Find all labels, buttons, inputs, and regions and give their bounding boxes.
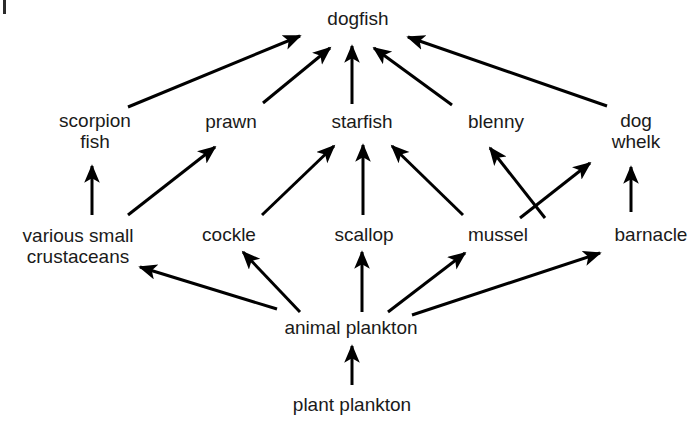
edge-animalplankton-to-cockle: [243, 252, 300, 312]
node-cockle: cockle: [202, 224, 256, 245]
node-label-line: mussel: [468, 224, 528, 245]
node-label-line: plant plankton: [293, 394, 411, 415]
node-crustaceans: various smallcrustaceans: [23, 225, 134, 267]
node-plantplankton: plant plankton: [293, 394, 411, 415]
edge-animalplankton-to-barnacle: [412, 253, 600, 315]
node-scorpionfish: scorpionfish: [59, 110, 131, 152]
node-blenny: blenny: [468, 111, 524, 132]
node-label-line: various small: [23, 225, 134, 246]
node-label-line: barnacle: [615, 224, 688, 245]
node-barnacle: barnacle: [615, 224, 688, 245]
edge-mussel-to-starfish: [392, 146, 463, 215]
node-label-line: dogfish: [327, 8, 388, 29]
node-label-line: prawn: [205, 111, 257, 132]
node-label-line: blenny: [468, 111, 524, 132]
food-web-diagram: dogfishscorpionfishprawnstarfishblennydo…: [0, 0, 694, 425]
node-label-line: dog: [612, 110, 661, 131]
node-mussel: mussel: [468, 224, 528, 245]
node-prawn: prawn: [205, 111, 257, 132]
node-label-line: whelk: [612, 131, 661, 152]
node-label-line: animal plankton: [284, 317, 417, 338]
node-dogfish: dogfish: [327, 8, 388, 29]
node-dogwhelk: dogwhelk: [612, 110, 661, 152]
edge-layer: [0, 0, 694, 425]
edge-barnacle-to-blenny: [490, 148, 545, 218]
node-animalplankton: animal plankton: [284, 317, 417, 338]
node-label-line: crustaceans: [23, 246, 134, 267]
node-scallop: scallop: [334, 224, 393, 245]
edge-prawn-to-dogfish: [263, 48, 330, 103]
edge-animalplankton-to-crustaceans: [140, 267, 277, 309]
node-label-line: starfish: [331, 111, 392, 132]
edge-scorpionfish-to-dogfish: [128, 36, 300, 107]
node-label-line: scallop: [334, 224, 393, 245]
node-label-line: fish: [59, 131, 131, 152]
node-label-line: cockle: [202, 224, 256, 245]
node-starfish: starfish: [331, 111, 392, 132]
edge-cockle-to-starfish: [262, 146, 334, 215]
edge-crustaceans-to-prawn: [128, 147, 215, 215]
edge-animalplankton-to-mussel: [388, 253, 465, 312]
edge-blenny-to-dogfish: [374, 48, 452, 105]
node-label-line: scorpion: [59, 110, 131, 131]
edge-mussel-to-dogwhelk: [520, 163, 590, 218]
